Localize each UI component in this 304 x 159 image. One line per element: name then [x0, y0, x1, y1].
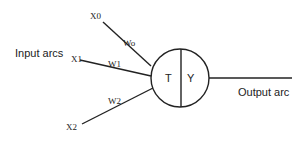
diagram-svg: Input arcs Output arc X0 Wo X1 W1 W2 X2 …	[0, 0, 304, 159]
input-x2-label: X2	[66, 122, 77, 132]
input-arc-x2	[82, 88, 153, 124]
output-arc-label: Output arc	[238, 86, 290, 98]
node-threshold-label: T	[165, 72, 172, 84]
input-arcs-label: Input arcs	[15, 47, 64, 59]
node-output-label: Y	[187, 72, 195, 84]
neuron-diagram: Input arcs Output arc X0 Wo X1 W1 W2 X2 …	[0, 0, 304, 159]
weight-w1-label: W1	[108, 59, 121, 69]
input-x1-label: X1	[71, 54, 82, 64]
input-x0-label: X0	[90, 11, 101, 21]
neuron-node	[151, 49, 209, 107]
weight-w0-label: Wo	[123, 38, 136, 48]
weight-w2-label: W2	[108, 96, 121, 106]
